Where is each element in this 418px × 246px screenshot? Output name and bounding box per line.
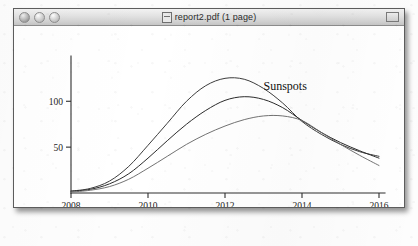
x-tick-label: 2016	[370, 201, 389, 207]
series-line-upper	[71, 78, 379, 191]
pdf-preview-window[interactable]: report2.pdf (1 page) 5010020082010201220…	[13, 8, 405, 208]
window-title: report2.pdf (1 page)	[175, 12, 257, 22]
window-controls[interactable]	[19, 12, 60, 23]
sunspots-line-chart: 5010020082010201220142016Sunspots	[14, 26, 404, 207]
series-line-middle	[71, 97, 379, 191]
x-tick-label: 2010	[139, 201, 158, 207]
x-tick-label: 2014	[293, 201, 312, 207]
close-button[interactable]	[19, 12, 30, 23]
chart-annotation-sunspots: Sunspots	[264, 79, 308, 93]
y-tick-label: 50	[54, 143, 64, 153]
x-tick-label: 2012	[216, 201, 235, 207]
x-tick-label: 2008	[62, 201, 81, 207]
minimize-button[interactable]	[34, 12, 45, 23]
scanned-page-background: report2.pdf (1 page) 5010020082010201220…	[0, 0, 418, 246]
window-title-bar[interactable]: report2.pdf (1 page)	[14, 9, 404, 26]
document-icon	[162, 12, 172, 23]
y-tick-label: 100	[49, 97, 64, 107]
pdf-page-content: 5010020082010201220142016Sunspots	[14, 26, 404, 207]
window-title-group: report2.pdf (1 page)	[14, 12, 404, 23]
zoom-button[interactable]	[49, 12, 60, 23]
window-resize-widget-icon[interactable]	[386, 12, 399, 22]
